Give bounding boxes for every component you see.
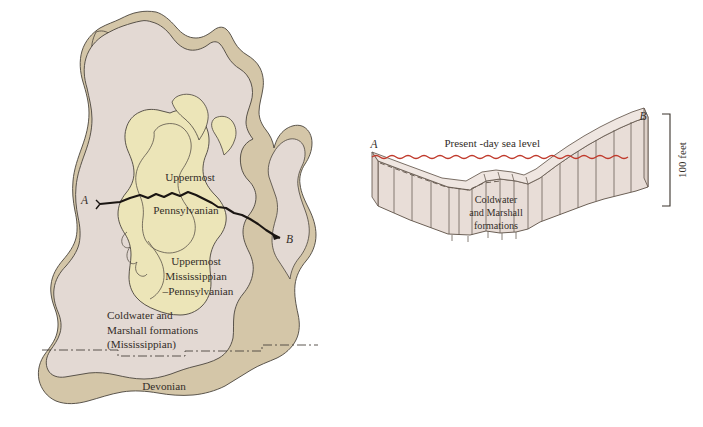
xs-formation-label-line3: formations (474, 220, 518, 231)
xs-formation-label-line1: Coldwater (475, 194, 518, 205)
map-label-uppermost-miss-penn-line2: Mississippian (165, 270, 227, 282)
map-label-coldwater-marshall-line3: (Mississippian) (107, 338, 176, 351)
map-label-coldwater-marshall-line2: Marshall formations (107, 324, 198, 336)
figure-canvas: A B Uppermost Pennsylvanian Uppermost Mi… (0, 0, 703, 427)
map-label-coldwater-marshall-line1: Coldwater and (107, 309, 173, 321)
map-section-label-a: A (80, 194, 89, 206)
xs-block-left-endcap (372, 152, 378, 206)
xs-scale-label: 100 feet (676, 142, 688, 178)
map-label-uppermost-pennsylvanian-line1: Uppermost (165, 171, 216, 183)
map-group: A B Uppermost Pennsylvanian Uppermost Mi… (38, 11, 318, 403)
map-label-uppermost-miss-penn-line3: –Pennsylvanian (162, 285, 234, 297)
map-label-uppermost-miss-penn-line1: Uppermost (171, 255, 222, 267)
figure-root: A B Uppermost Pennsylvanian Uppermost Mi… (0, 0, 703, 427)
map-section-label-b: B (286, 233, 293, 245)
map-label-uppermost-pennsylvanian-line2: Pennsylvanian (153, 204, 219, 216)
xs-scale-bracket (662, 114, 670, 206)
xs-sea-level-label: Present -day sea level (444, 137, 540, 149)
xs-formation-label-line2: and Marshall (469, 207, 523, 218)
map-label-devonian: Devonian (142, 380, 186, 392)
xs-label-b: B (639, 110, 646, 122)
xs-label-a: A (369, 138, 378, 150)
cross-section-group: Present -day sea level A B Coldwater and… (369, 108, 688, 242)
